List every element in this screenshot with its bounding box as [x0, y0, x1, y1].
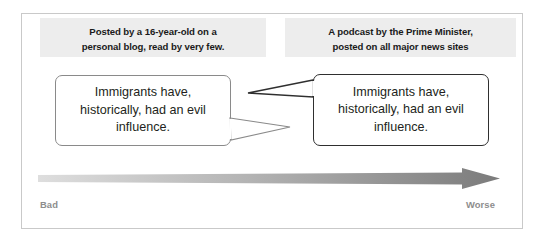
caption-right-line-1: A podcast by the Prime Minister, [285, 24, 516, 39]
scale-label-start: Bad [40, 199, 58, 210]
scale-arrow-shape [38, 168, 500, 189]
speech-bubble-left-text: Immigrants have, historically, had an ev… [56, 84, 230, 137]
scale-label-end: Worse [466, 199, 495, 210]
caption-left-line-1: Posted by a 16-year-old on a [40, 24, 266, 39]
caption-right-line-2: posted on all major news sites [285, 39, 516, 54]
speech-bubble-left: Immigrants have, historically, had an ev… [55, 75, 231, 146]
speech-bubble-right: Immigrants have, historically, had an ev… [313, 74, 489, 146]
caption-box-right: A podcast by the Prime Minister, posted … [285, 18, 516, 57]
caption-box-left: Posted by a 16-year-old on a personal bl… [40, 18, 266, 57]
figure-root: Posted by a 16-year-old on a personal bl… [0, 0, 541, 243]
speech-bubble-right-text: Immigrants have, historically, had an ev… [314, 84, 488, 137]
scale-arrow [38, 168, 500, 194]
caption-left-line-2: personal blog, read by very few. [40, 39, 266, 54]
